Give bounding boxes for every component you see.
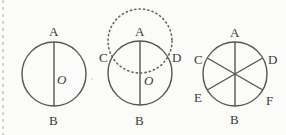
diagram-canvas: A B O A B O C D A B C D E F: [0, 0, 286, 135]
label-b-3: B: [230, 112, 239, 127]
label-f-3: F: [266, 93, 273, 108]
label-d-3: D: [268, 52, 277, 67]
label-c-3: C: [194, 52, 203, 67]
figure-2: A B O C D: [99, 9, 181, 128]
stray-dot: [91, 78, 93, 80]
label-b-1: B: [49, 113, 58, 128]
figure-1: A B O: [22, 24, 93, 128]
label-a-2: A: [135, 24, 145, 39]
label-d-2: D: [172, 50, 181, 65]
label-b-2: B: [135, 113, 144, 128]
label-c-2: C: [99, 50, 108, 65]
label-a-1: A: [49, 24, 59, 39]
label-o-2: O: [144, 73, 154, 88]
label-o-1: O: [57, 72, 67, 87]
label-e-3: E: [194, 90, 202, 105]
figure-3: A B C D E F: [194, 25, 277, 127]
label-a-3: A: [230, 25, 240, 40]
